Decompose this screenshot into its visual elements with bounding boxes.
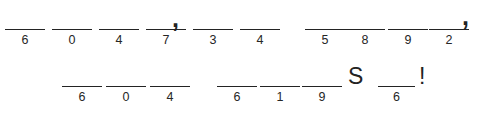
blank-rule: [52, 29, 92, 30]
blank-code-digit: 6: [217, 90, 257, 104]
blank-rule: [302, 86, 342, 87]
blank-code-digit: 4: [150, 90, 190, 104]
exclamation-glyph: !: [419, 65, 425, 88]
blank-code-digit: 2: [429, 33, 469, 47]
blank-code-digit: 9: [388, 33, 428, 47]
blank-rule: [99, 29, 139, 30]
blank-rule: [5, 29, 45, 30]
comma-1-glyph: ,: [172, 6, 179, 31]
blank-rule: [62, 86, 102, 87]
blank-code-digit: 0: [106, 90, 146, 104]
blank-code-digit: 5: [305, 33, 345, 47]
blank-rule: [106, 86, 146, 87]
blank-code-digit: 6: [5, 33, 45, 47]
blank-rule: [146, 29, 186, 30]
blank-code-digit: 4: [99, 33, 139, 47]
comma-2-glyph: ,: [462, 4, 469, 29]
blank-code-digit: 4: [240, 33, 280, 47]
blank-rule: [388, 29, 428, 30]
cryptogram-worksheet: 6047345892,,6046196S!: [0, 0, 484, 121]
blank-rule: [345, 29, 385, 30]
blank-rule: [305, 29, 345, 30]
blank-code-digit: 1: [260, 90, 300, 104]
blank-rule: [150, 86, 190, 87]
blank-code-digit: 8: [345, 33, 385, 47]
blank-code-digit: 3: [193, 33, 233, 47]
blank-rule: [260, 86, 300, 87]
blank-rule: [217, 86, 257, 87]
blank-code-digit: 0: [52, 33, 92, 47]
blank-rule: [193, 29, 233, 30]
blank-code-digit: 7: [146, 33, 186, 47]
blank-rule: [240, 29, 280, 30]
blank-code-digit: 9: [302, 90, 342, 104]
blank-code-digit: 6: [378, 90, 415, 104]
blank-code-digit: 6: [62, 90, 102, 104]
blank-rule: [378, 86, 415, 87]
letter-s-glyph: S: [348, 65, 363, 88]
